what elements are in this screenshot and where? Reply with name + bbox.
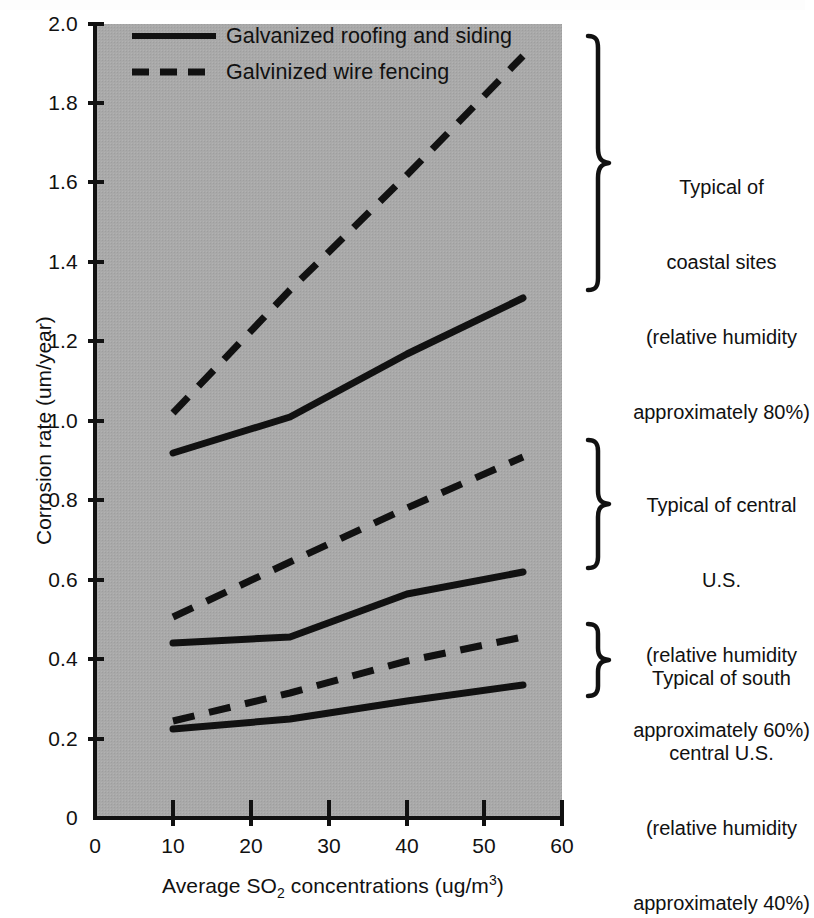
x-tick-label-30: 30 [299,834,359,858]
plot-background [95,24,562,818]
x-axis-title: Average SO2 concentrations (ug/m3) [118,874,548,898]
x-tick-label-10: 10 [143,834,203,858]
annotation-south-central-us-line-4: approximately 40%) [614,891,814,916]
brace-coastal [588,36,609,290]
y-tick-label-0-6: 0.6 [18,568,78,592]
x-tick-label-0: 0 [65,834,125,858]
x-tick-label-50: 50 [454,834,514,858]
x-tick-label-40: 40 [377,834,437,858]
y-tick-label-1-6: 1.6 [18,170,78,194]
x-axis-title-part3: ) [497,874,504,897]
y-tick-label-1-8: 1.8 [18,91,78,115]
x-axis-title-part2: concentrations (ug/m [285,874,489,897]
annotation-coastal-line-1: Typical of [614,175,814,200]
x-axis-title-subscript: 2 [277,885,285,901]
legend-label-roofing-siding: Galvanized roofing and siding [226,24,512,49]
annotation-south-central-us: Typical of south central U.S. (relative … [614,616,814,918]
page-top-edge [0,0,805,10]
y-tick-label-0: 0 [18,806,78,830]
annotation-coastal: Typical of coastal sites (relative humid… [614,125,814,475]
annotation-central-us-line-2: U.S. [614,568,814,593]
brace-central-us [588,440,609,568]
annotation-south-central-us-line-1: Typical of south [614,666,814,691]
annotation-south-central-us-line-2: central U.S. [614,741,814,766]
y-tick-label-1-4: 1.4 [18,250,78,274]
annotation-coastal-line-3: (relative humidity [614,325,814,350]
annotation-south-central-us-line-3: (relative humidity [614,816,814,841]
annotation-central-us-line-1: Typical of central [614,493,814,518]
y-tick-label-2-0: 2.0 [18,12,78,36]
x-axis-title-superscript: 3 [489,872,497,888]
legend-label-wire-fencing: Galvinized wire fencing [226,60,449,85]
annotation-coastal-line-2: coastal sites [614,250,814,275]
x-axis-title-part1: Average SO [162,874,277,897]
brace-south-central-us [588,624,609,696]
y-axis-title: Corrosion rate (um/year) [32,316,56,545]
annotation-coastal-line-4: approximately 80%) [614,400,814,425]
x-tick-label-60: 60 [532,834,592,858]
x-tick-label-20: 20 [221,834,281,858]
y-tick-label-0-2: 0.2 [18,727,78,751]
y-tick-label-0-4: 0.4 [18,647,78,671]
